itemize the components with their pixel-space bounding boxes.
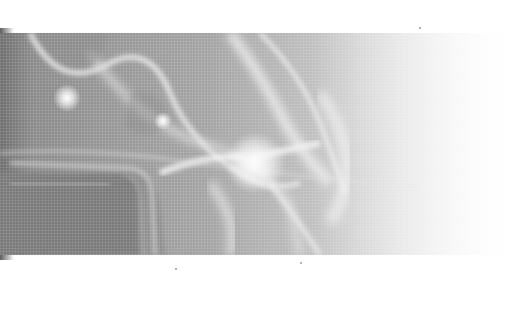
dust-speck [175,268,177,270]
dust-speck [300,262,302,264]
halftone-photograph [0,33,522,255]
photo-shapes [0,33,522,255]
dust-speck [419,27,421,29]
